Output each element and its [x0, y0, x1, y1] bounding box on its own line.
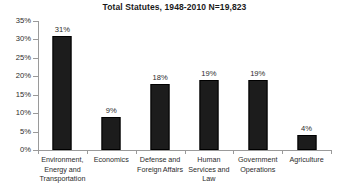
y-axis-tick-label-text: 15%	[0, 91, 31, 99]
x-axis-category-label: Economics	[87, 155, 136, 165]
y-axis-tick-label-text: 5%	[0, 128, 31, 136]
bar	[102, 117, 121, 150]
y-axis-tick-label: 35%	[0, 17, 31, 25]
x-axis-category-label-line: Economics	[87, 155, 136, 165]
y-axis-tick-label: 10%	[0, 109, 31, 117]
bar-slot: 19%	[233, 21, 282, 150]
y-axis-tick-label: 25%	[0, 54, 31, 62]
x-axis-tick	[331, 150, 332, 154]
x-axis-tick	[185, 150, 186, 154]
x-axis-tick	[38, 150, 39, 154]
y-axis-tick-label-text: 0%	[0, 146, 31, 154]
x-axis-category-label-line: Operations	[233, 165, 282, 175]
x-axis-category-label-line: Transportation	[38, 174, 87, 184]
x-axis-category-label-line: Services and	[185, 165, 234, 175]
bar-slot: 18%	[136, 21, 185, 150]
x-axis-category-label: Agriculture	[282, 155, 331, 165]
x-axis-category-label: Defense andForeign Affairs	[136, 155, 185, 174]
y-axis-tick-label-text: 10%	[0, 109, 31, 117]
bar-slot: 31%	[38, 21, 87, 150]
x-axis-category-label-line: Human	[185, 155, 234, 165]
x-axis-category-label-line: Government	[233, 155, 282, 165]
bar-value-label: 9%	[106, 107, 117, 115]
x-axis-tick	[87, 150, 88, 154]
x-axis-category-label-line: Defense and	[136, 155, 185, 165]
y-axis-tick-label: 20%	[0, 72, 31, 80]
y-axis-tick-label-text: 20%	[0, 72, 31, 80]
y-axis-tick-label-text: 35%	[0, 17, 31, 25]
y-axis-tick-label: 15%	[0, 91, 31, 99]
x-axis-category-label-line: Foreign Affairs	[136, 165, 185, 175]
bar-value-label: 18%	[152, 74, 167, 82]
bar	[297, 135, 316, 150]
bar	[248, 80, 267, 150]
bar-value-label: 19%	[250, 70, 265, 78]
bar	[151, 84, 170, 150]
bar-slot: 19%	[185, 21, 234, 150]
bar-value-label: 19%	[201, 70, 216, 78]
bar-slot: 9%	[87, 21, 136, 150]
x-axis-category-label-line: Law	[185, 174, 234, 184]
x-axis-category-label: Environment,Energy andTransportation	[38, 155, 87, 184]
bar	[53, 36, 72, 150]
x-axis-category-label-line: Energy and	[38, 165, 87, 175]
x-axis-tick	[136, 150, 137, 154]
x-axis-tick	[233, 150, 234, 154]
y-axis-tick-label: 0%	[0, 146, 31, 154]
x-axis-category-label: HumanServices andLaw	[185, 155, 234, 184]
y-axis-tick-label: 30%	[0, 35, 31, 43]
bar	[199, 80, 218, 150]
x-axis-category-label: GovernmentOperations	[233, 155, 282, 174]
x-axis-category-label-line: Agriculture	[282, 155, 331, 165]
bar-slot: 4%	[282, 21, 331, 150]
x-axis-tick	[282, 150, 283, 154]
bar-chart: Total Statutes, 1948-2010 N=19,823 0%5%1…	[0, 0, 349, 193]
y-axis-tick-label-text: 25%	[0, 54, 31, 62]
y-axis-tick-label-text: 30%	[0, 35, 31, 43]
bar-value-label: 31%	[55, 26, 70, 34]
chart-title: Total Statutes, 1948-2010 N=19,823	[0, 2, 349, 12]
bar-value-label: 4%	[301, 125, 312, 133]
x-axis-category-label-line: Environment,	[38, 155, 87, 165]
y-axis-tick-label: 5%	[0, 128, 31, 136]
